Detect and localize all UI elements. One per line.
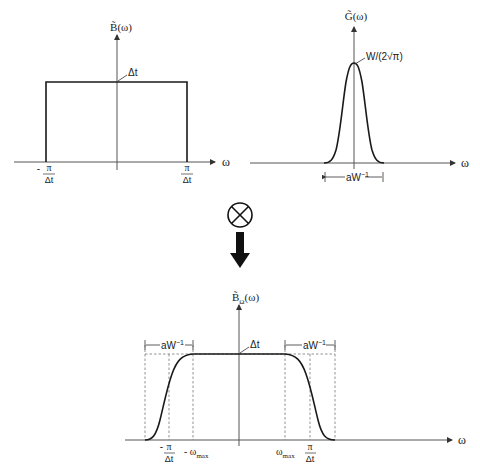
convolution-operator (228, 203, 252, 268)
y-axis-label: B̃(ω) (110, 21, 132, 34)
tick-neg-pi-over-dt: - π Δt (160, 441, 175, 464)
x-axis-label: ω (458, 433, 466, 447)
svg-text:π: π (307, 441, 312, 452)
y-axis-label: B̃Ω(ω) (232, 291, 259, 306)
smoothed-window-curve (145, 354, 335, 440)
gaussian-plot: G̃(ω) ω W/(2√π) aW−1 (250, 10, 469, 183)
peak-value-label: W/(2√π) (366, 51, 403, 62)
circled-times-icon (228, 203, 252, 227)
x-axis-label: ω (222, 155, 230, 169)
svg-text:π: π (166, 441, 171, 452)
svg-text:-: - (37, 163, 40, 174)
tick-neg-pi-over-dt: - π Δt (37, 162, 55, 185)
svg-text:aW−1: aW−1 (161, 339, 184, 351)
width-bracket: aW−1 (325, 171, 383, 183)
convolved-result-plot: B̃Ω(ω) ω Δt aW−1 aW−1 - π Δt - ωmax (125, 291, 466, 464)
svg-text:Δt: Δt (306, 454, 315, 464)
dashed-guides (145, 345, 335, 440)
svg-text:π: π (46, 162, 51, 173)
peak-leader-line (118, 75, 127, 81)
left-width-bracket: aW−1 (145, 339, 193, 351)
y-axis-label: G̃(ω) (345, 10, 368, 23)
svg-text:π: π (184, 162, 189, 173)
tick-pi-over-dt: π Δt (181, 162, 193, 185)
tick-neg-omega-max: - ωmax (184, 446, 209, 460)
svg-text:-: - (160, 441, 163, 452)
peak-value-label: Δt (128, 67, 138, 78)
svg-text:Δt: Δt (45, 175, 54, 185)
svg-text:Δt: Δt (165, 454, 174, 464)
peak-leader-line (355, 58, 365, 64)
svg-text:aW−1: aW−1 (303, 339, 326, 351)
right-width-bracket: aW−1 (285, 339, 335, 351)
plateau-leader-line (240, 347, 249, 353)
plateau-value-label: Δt (250, 339, 260, 350)
tick-omega-max: ωmax (276, 446, 295, 460)
x-axis-label: ω (461, 156, 469, 170)
convolution-diagram: B̃(ω) ω Δt - π Δt π Δt G̃(ω) ω W/(2√π) (0, 0, 480, 470)
down-arrow-icon (230, 232, 250, 268)
rect-window-plot: B̃(ω) ω Δt - π Δt π Δt (14, 21, 230, 185)
svg-text:Δt: Δt (183, 175, 192, 185)
tick-pi-over-dt: π Δt (305, 441, 316, 464)
svg-text:aW−1: aW−1 (346, 171, 369, 183)
